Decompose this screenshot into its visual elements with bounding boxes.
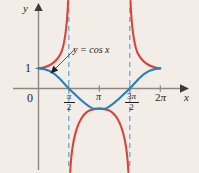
fraction-numerator: π: [62, 92, 76, 101]
fraction-numerator: 3π: [123, 92, 140, 101]
sec-branch-left: [39, 1, 69, 68]
sec-branch-right: [131, 1, 161, 68]
x-tick-label-3pi-over-2: 3π 2: [123, 92, 140, 112]
x-axis-label: x: [184, 92, 189, 103]
y-axis-arrowhead: [34, 3, 42, 11]
x-tick-label-2pi: 2π: [155, 92, 166, 103]
x-tick-label-pi-over-2: π 2: [62, 92, 76, 112]
plot-canvas: [0, 0, 199, 173]
figure-sec-cos-graph: y x 0 1 π 2π π 2 3π 2 y = cos x: [0, 0, 199, 173]
sec-branch-middle: [70, 109, 128, 172]
y-axis-label: y: [23, 3, 28, 14]
y-tick-label-one: 1: [25, 62, 31, 74]
origin-label: 0: [27, 92, 33, 104]
cos-curve-annotation-label: y = cos x: [73, 45, 109, 55]
x-tick-label-pi: π: [96, 92, 101, 102]
fraction-denominator: 2: [62, 103, 76, 112]
fraction-denominator: 2: [123, 103, 140, 112]
